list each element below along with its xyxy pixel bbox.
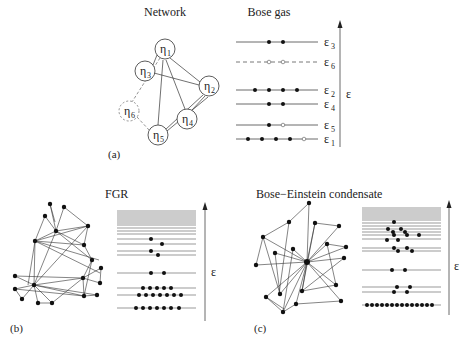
network-b — [15, 204, 101, 303]
svg-text:6: 6 — [331, 62, 335, 71]
svg-text:ε: ε — [324, 132, 329, 146]
node-eta5: η5 — [148, 125, 168, 145]
bose-gas-levels — [236, 40, 318, 141]
node-eta6: η6 — [119, 101, 139, 121]
svg-text:5: 5 — [160, 135, 164, 144]
bec-title: Bose−Einstein condensate — [256, 187, 382, 201]
energy-axis-a: ε — [338, 20, 352, 147]
svg-text:η: η — [124, 104, 130, 118]
svg-text:ε: ε — [324, 118, 329, 132]
bec-particles — [365, 220, 434, 307]
svg-text:3: 3 — [147, 71, 151, 80]
fgr-levels — [117, 211, 196, 308]
svg-text:1: 1 — [331, 139, 335, 148]
network-c — [256, 203, 346, 312]
panel-c-label: (c) — [254, 322, 267, 335]
bose-gas-level-labels: ε3 ε6 ε2 ε4 ε5 ε1 — [324, 35, 335, 148]
node-eta3: η3 — [135, 61, 155, 81]
svg-text:6: 6 — [131, 111, 135, 120]
panel-b-label: (b) — [10, 322, 23, 335]
svg-text:ε: ε — [324, 35, 329, 49]
network-b-nodes — [13, 202, 103, 305]
axis-label-c: ε — [454, 259, 459, 273]
axis-label-b: ε — [211, 265, 216, 279]
svg-text:4: 4 — [331, 104, 335, 113]
diagram-canvas: Network Bose gas η1 η2 η3 η4 η5 η6 (a) — [0, 0, 463, 344]
svg-text:η: η — [160, 42, 166, 56]
svg-text:5: 5 — [331, 125, 335, 134]
network-title: Network — [144, 5, 186, 19]
node-eta2: η2 — [199, 76, 219, 96]
svg-text:1: 1 — [167, 49, 171, 58]
svg-text:ε: ε — [324, 83, 329, 97]
svg-text:η: η — [140, 64, 146, 78]
svg-text:η: η — [182, 112, 188, 126]
energy-axis-b: ε — [203, 202, 217, 321]
axis-label-a: ε — [346, 87, 351, 101]
panel-a-label: (a) — [108, 148, 121, 161]
svg-text:2: 2 — [211, 86, 215, 95]
network-c-nodes — [254, 201, 348, 314]
fgr-particles — [134, 237, 183, 310]
fgr-title: FGR — [105, 187, 128, 201]
node-eta1: η1 — [155, 39, 175, 59]
bec-levels — [362, 208, 441, 305]
svg-text:η: η — [204, 79, 210, 93]
node-eta4: η4 — [177, 109, 197, 129]
svg-text:ε: ε — [324, 55, 329, 69]
svg-text:ε: ε — [324, 97, 329, 111]
svg-text:η: η — [153, 128, 159, 142]
svg-text:4: 4 — [189, 119, 193, 128]
svg-text:2: 2 — [331, 90, 335, 99]
bose-gas-title: Bose gas — [248, 5, 291, 19]
energy-axis-c: ε — [447, 200, 460, 315]
svg-text:3: 3 — [331, 42, 335, 51]
